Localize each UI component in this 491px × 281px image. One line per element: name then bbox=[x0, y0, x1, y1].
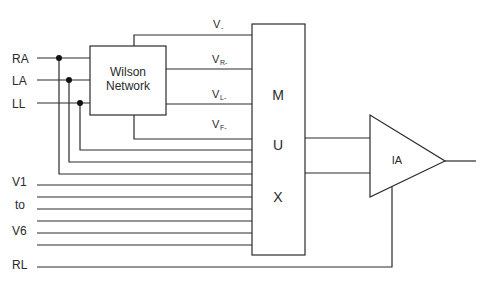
svg-text:V: V bbox=[212, 118, 220, 130]
svg-text:V: V bbox=[212, 53, 220, 65]
ra-label: RA bbox=[12, 52, 29, 66]
la-junction-dot bbox=[66, 77, 72, 83]
amp-label: IA bbox=[392, 154, 403, 166]
rl-wire bbox=[37, 187, 392, 267]
instrumentation-amplifier bbox=[370, 115, 445, 197]
svg-text:-: - bbox=[221, 24, 224, 31]
svg-text:L-: L- bbox=[220, 94, 227, 101]
ll-junction-dot bbox=[77, 100, 83, 106]
vf-label: V F- bbox=[212, 118, 227, 131]
vf-wire bbox=[134, 115, 252, 139]
vminus-wire bbox=[134, 35, 252, 46]
rl-label: RL bbox=[12, 258, 28, 272]
la-label: LA bbox=[12, 74, 27, 88]
wilson-label-line2: Network bbox=[106, 79, 151, 93]
ecg-mux-diagram: RA LA LL V1 to V6 RL Wilson Network V - … bbox=[0, 0, 491, 281]
v6-label: V6 bbox=[12, 224, 27, 238]
to-label: to bbox=[15, 198, 25, 212]
mux-letter-x: X bbox=[273, 189, 283, 205]
vminus-label: V - bbox=[213, 18, 224, 31]
svg-text:V: V bbox=[213, 18, 221, 30]
wilson-label-line1: Wilson bbox=[110, 65, 146, 79]
mux-letter-u: U bbox=[273, 137, 283, 153]
svg-text:R-: R- bbox=[220, 59, 228, 66]
ra-junction-dot bbox=[56, 55, 62, 61]
vr-label: V R- bbox=[212, 53, 228, 66]
v1-label: V1 bbox=[12, 175, 27, 189]
vl-label: V L- bbox=[212, 88, 227, 101]
svg-text:V: V bbox=[212, 88, 220, 100]
mux-letter-m: M bbox=[272, 87, 284, 103]
ll-label: LL bbox=[12, 97, 26, 111]
svg-text:F-: F- bbox=[220, 124, 227, 131]
